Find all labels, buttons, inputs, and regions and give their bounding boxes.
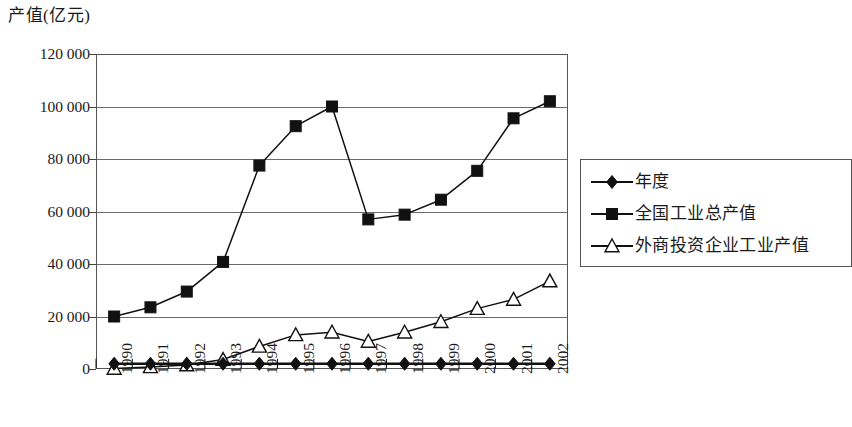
y-tick-label: 20 000 (6, 309, 90, 324)
legend-item-0[interactable]: 年度 (589, 166, 851, 198)
data-point-marker (607, 176, 618, 189)
y-axis-title: 产值(亿元) (8, 6, 90, 26)
gridline (97, 212, 567, 213)
y-tick-mark (88, 107, 96, 108)
gridline (97, 159, 567, 160)
legend-marker-filled-diamond-icon (589, 171, 635, 193)
gridline (97, 264, 567, 265)
y-tick-label: 40 000 (6, 256, 90, 271)
y-tick-label: 100 000 (6, 99, 90, 114)
y-tick-mark (88, 159, 96, 160)
legend-item-2[interactable]: 外商投资企业工业产值 (589, 230, 851, 262)
y-tick-mark (88, 369, 96, 370)
legend-marker-open-triangle-icon (589, 235, 635, 257)
plot-area (96, 54, 568, 369)
y-tick-label: 80 000 (6, 151, 90, 166)
y-tick-mark (88, 264, 96, 265)
gridline (97, 107, 567, 108)
legend-item-1[interactable]: 全国工业总产值 (589, 198, 851, 230)
legend-marker-filled-square-icon (589, 203, 635, 225)
y-tick-mark (88, 317, 96, 318)
gridline (97, 317, 567, 318)
y-tick-label: 60 000 (6, 204, 90, 219)
y-tick-label: 0 (6, 361, 90, 376)
legend: 年度全国工业总产值外商投资企业工业产值 (580, 159, 852, 267)
legend-label: 外商投资企业工业产值 (635, 236, 809, 256)
legend-label: 年度 (635, 172, 670, 192)
y-tick-mark (88, 212, 96, 213)
data-point-marker (607, 209, 618, 220)
chart-figure: 产值(亿元) 020 00040 00060 00080 000100 0001… (0, 0, 852, 427)
y-tick-mark (88, 54, 96, 55)
legend-label: 全国工业总产值 (635, 204, 757, 224)
y-tick-label: 120 000 (6, 46, 90, 61)
